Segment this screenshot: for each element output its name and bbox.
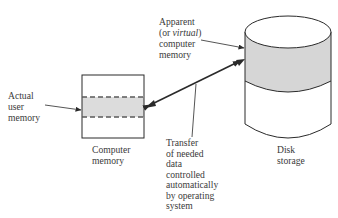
label-line: memory bbox=[159, 49, 191, 60]
label-line: of needed bbox=[166, 148, 204, 159]
label-line: Apparent bbox=[159, 16, 195, 27]
transfer-label: Transfer of needed data controlled autom… bbox=[166, 137, 221, 211]
actual-user-memory-pointer bbox=[45, 105, 81, 110]
label-line: storage bbox=[277, 155, 305, 166]
label-line: user bbox=[8, 101, 25, 112]
apparent-memory-pointer bbox=[201, 40, 244, 48]
label-line: controlled bbox=[166, 169, 205, 180]
disk-storage-cylinder bbox=[245, 16, 331, 138]
label-italic-text: virtual bbox=[173, 27, 199, 38]
actual-user-memory-label: Actual user memory bbox=[8, 90, 40, 123]
actual-user-memory-band bbox=[82, 97, 144, 117]
transfer-arrow-left-head bbox=[145, 100, 156, 108]
label-line: Computer bbox=[92, 144, 131, 155]
transfer-label-pointer bbox=[192, 84, 196, 137]
label-line: memory bbox=[8, 112, 40, 123]
label-text: ) bbox=[198, 27, 201, 39]
label-line: computer bbox=[159, 38, 196, 49]
cylinder-top bbox=[245, 16, 331, 48]
cylinder-bottom bbox=[245, 124, 331, 138]
transfer-arrow-right-head bbox=[236, 59, 245, 66]
label-line: Disk bbox=[277, 144, 295, 155]
label-line: system bbox=[166, 200, 193, 211]
computer-memory-box bbox=[82, 75, 144, 138]
label-line: Transfer bbox=[166, 137, 199, 148]
disk-storage-label: Disk storage bbox=[277, 144, 305, 166]
computer-memory-label: Computer memory bbox=[92, 144, 133, 166]
apparent-memory-label: Apparent (or virtual) computer memory bbox=[159, 16, 204, 60]
label-line: memory bbox=[92, 155, 124, 166]
label-line: by operating bbox=[166, 190, 214, 201]
label-line: automatically bbox=[166, 179, 218, 190]
label-line: data bbox=[166, 158, 183, 169]
virtual-memory-diagram: Actual user memory Apparent (or virtual)… bbox=[0, 0, 338, 218]
label-line: Actual bbox=[8, 90, 34, 101]
